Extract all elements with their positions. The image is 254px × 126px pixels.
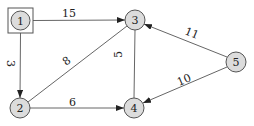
edge-2-3 <box>28 26 127 102</box>
svg-text:5: 5 <box>233 56 240 69</box>
edge-label-5-4: 10 <box>175 71 193 88</box>
edge-1-2 <box>20 33 21 98</box>
edge-label-3-4: 5 <box>112 51 125 58</box>
edge-label-5-3: 11 <box>183 25 201 42</box>
edge-3-4 <box>134 30 135 98</box>
svg-text:3: 3 <box>132 14 139 27</box>
edge-1-3 <box>33 20 125 21</box>
node-1: 1 <box>11 11 30 30</box>
edge-label-1-3: 15 <box>62 7 76 20</box>
edge-label-2-4: 6 <box>69 96 76 109</box>
node-4: 4 <box>124 98 144 118</box>
svg-text:2: 2 <box>17 102 24 115</box>
edge-label-2-3: 8 <box>60 54 73 69</box>
graph-diagram: 15 3 8 6 5 11 10 1 2 3 4 5 <box>0 0 254 126</box>
svg-text:4: 4 <box>131 102 138 115</box>
node-2: 2 <box>10 98 30 118</box>
edge-label-1-2: 3 <box>4 60 17 67</box>
node-3: 3 <box>125 10 145 30</box>
svg-text:1: 1 <box>17 15 24 28</box>
node-5: 5 <box>226 52 246 72</box>
graph-svg: 15 3 8 6 5 11 10 1 2 3 4 5 <box>0 0 254 126</box>
